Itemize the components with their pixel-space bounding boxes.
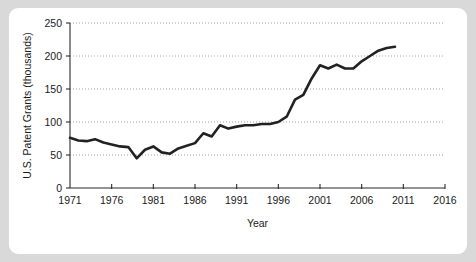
y-tick-label: 150 bbox=[44, 83, 62, 95]
y-tick-label: 50 bbox=[50, 149, 62, 161]
y-axis-ticks-group bbox=[66, 23, 70, 188]
patent-grants-series-line bbox=[70, 47, 395, 159]
chart-figure: 050100150200250 197119761981198619911996… bbox=[9, 8, 467, 254]
y-axis-title: U.S. Patent Grants (thousands) bbox=[21, 32, 33, 179]
patent-grants-line-chart: 050100150200250 197119761981198619911996… bbox=[9, 8, 467, 254]
gridlines-group bbox=[70, 23, 445, 155]
x-tick-label: 1996 bbox=[267, 194, 291, 206]
x-axis-tick-labels: 1971197619811986199119962001200620112016 bbox=[58, 194, 457, 206]
x-axis-title: Year bbox=[247, 217, 269, 229]
y-tick-label: 200 bbox=[44, 50, 62, 62]
y-axis-tick-labels: 050100150200250 bbox=[44, 17, 62, 194]
x-tick-label: 1971 bbox=[58, 194, 82, 206]
x-tick-label: 2006 bbox=[350, 194, 374, 206]
x-tick-label: 1981 bbox=[142, 194, 166, 206]
y-tick-label: 100 bbox=[44, 116, 62, 128]
x-tick-label: 2001 bbox=[308, 194, 332, 206]
x-tick-label: 2016 bbox=[433, 194, 457, 206]
x-tick-label: 1991 bbox=[225, 194, 249, 206]
chart-card: 050100150200250 197119761981198619911996… bbox=[9, 8, 467, 254]
y-tick-label: 250 bbox=[44, 17, 62, 29]
y-tick-label: 0 bbox=[56, 182, 62, 194]
x-tick-label: 2011 bbox=[392, 194, 415, 206]
x-tick-label: 1986 bbox=[183, 194, 207, 206]
screenshot-root: 050100150200250 197119761981198619911996… bbox=[0, 0, 476, 262]
x-tick-label: 1976 bbox=[100, 194, 124, 206]
